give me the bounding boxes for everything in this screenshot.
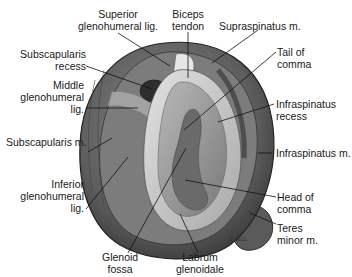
label-infraspinatus-recess: Infraspinatus recess <box>276 98 336 122</box>
label-superior-glenohumeral: Superior glenohumeral lig. <box>78 8 158 32</box>
label-supraspinatus: Supraspinatus m. <box>219 20 301 32</box>
artist-signature: E.BELL <box>230 236 247 242</box>
label-subscapularis-recess: Subscapularis recess <box>20 48 86 72</box>
label-subscapularis-m: Subscapularis m. <box>6 136 87 148</box>
label-infraspinatus-m: Infraspinatus m. <box>276 147 351 159</box>
label-head-of-comma: Head of comma <box>277 191 314 215</box>
label-tail-of-comma: Tail of comma <box>277 46 311 70</box>
label-biceps-tendon: Biceps tendon <box>172 8 204 32</box>
label-middle-glenohumeral: Middle glenohumeral lig. <box>20 79 84 115</box>
label-inferior-glenohumeral: Inferior glenohumeral lig. <box>20 178 84 214</box>
label-labrum-glenoidale: Labrum glenoidale <box>176 251 224 275</box>
label-teres-minor: Teres minor m. <box>277 222 318 246</box>
label-glenoid-fossa: Glenoid fossa <box>102 251 138 275</box>
